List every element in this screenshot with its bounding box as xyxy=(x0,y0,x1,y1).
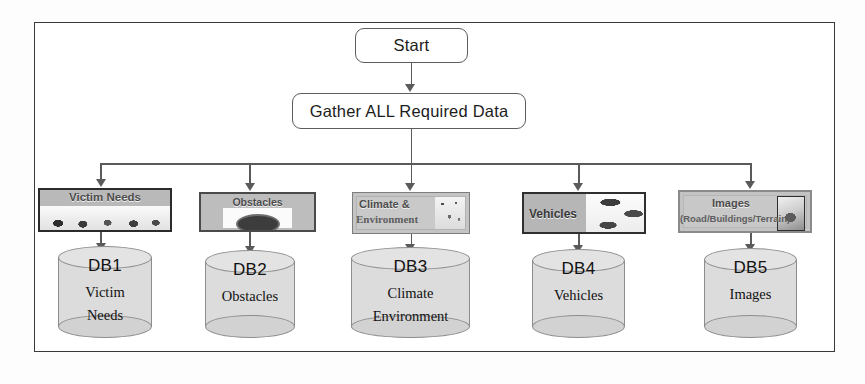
arrowhead-branch-4 xyxy=(573,183,583,191)
start-node-label: Start xyxy=(394,36,430,55)
db4-text: DB4 Vehicles xyxy=(532,249,625,338)
db1-name-line1: Victim xyxy=(85,282,124,303)
branch-drop-3 xyxy=(411,163,413,184)
image-box-sublabel-images: (Road/Buildings/Terrain) xyxy=(680,213,782,224)
branch-drop-2 xyxy=(249,163,251,184)
db5-name-line1: Images xyxy=(730,284,772,305)
db3-name-line1: Climate xyxy=(388,283,434,304)
image-box-label-obstacles: Obstacles xyxy=(201,196,314,208)
diagram-canvas: Start Gather ALL Required Data Victim Ne… xyxy=(0,0,865,384)
db3-id: DB3 xyxy=(394,257,428,277)
db1-name-line2: Needs xyxy=(87,305,123,326)
database-db5[interactable]: DB5 Images xyxy=(704,248,797,338)
connector-gather-to-bus xyxy=(411,129,413,164)
database-db4[interactable]: DB4 Vehicles xyxy=(532,249,625,338)
db4-name-line1: Vehicles xyxy=(554,285,603,306)
image-box-label-vehicles: Vehicles xyxy=(529,207,577,221)
obstacle-ellipse-icon xyxy=(236,214,280,232)
connector-start-to-gather xyxy=(411,63,413,85)
database-db3[interactable]: DB3 Climate Environment xyxy=(351,247,470,338)
image-box-obstacles[interactable]: Obstacles xyxy=(199,192,316,232)
db4-id: DB4 xyxy=(562,259,596,279)
branch-drop-5 xyxy=(750,163,752,182)
image-box-label-images: Images xyxy=(680,197,782,209)
image-box-vehicles[interactable]: Vehicles xyxy=(522,192,646,234)
image-box-climate-environment[interactable]: Climate & Environment xyxy=(352,192,470,234)
image-box-victim-needs[interactable]: Victim Needs xyxy=(38,188,172,232)
victim-needs-photo-icon xyxy=(40,206,170,230)
branch-drop-1 xyxy=(100,163,102,180)
arrowhead-branch-5 xyxy=(745,181,755,189)
gather-data-label: Gather ALL Required Data xyxy=(310,102,509,121)
image-box-sublabel-climate: Environment xyxy=(356,213,418,225)
vehicles-photo-icon xyxy=(586,194,644,232)
db1-id: DB1 xyxy=(88,256,122,276)
database-db2[interactable]: DB2 Obstacles xyxy=(205,250,295,338)
branch-drop-4 xyxy=(578,163,580,184)
arrowhead-branch-1 xyxy=(96,179,106,187)
arrowhead-branch-2 xyxy=(245,183,255,191)
gather-data-node[interactable]: Gather ALL Required Data xyxy=(292,93,526,129)
image-box-label-climate: Climate & xyxy=(359,198,410,210)
db2-id: DB2 xyxy=(233,260,267,280)
image-box-images[interactable]: Images (Road/Buildings/Terrain) xyxy=(678,190,812,233)
arrowhead-gather xyxy=(405,84,415,92)
db2-text: DB2 Obstacles xyxy=(205,250,295,338)
distribution-bus xyxy=(101,163,751,165)
db5-id: DB5 xyxy=(734,258,768,278)
db2-name-line1: Obstacles xyxy=(222,286,278,307)
db3-name-line2: Environment xyxy=(373,306,449,327)
db1-text: DB1 Victim Needs xyxy=(58,246,152,338)
db3-text: DB3 Climate Environment xyxy=(351,247,470,338)
arrowhead-branch-3 xyxy=(405,183,415,191)
image-box-label-victim-needs: Victim Needs xyxy=(40,191,170,203)
start-node[interactable]: Start xyxy=(355,28,468,63)
database-db1[interactable]: DB1 Victim Needs xyxy=(58,246,152,338)
db5-text: DB5 Images xyxy=(704,248,797,338)
climate-photo-icon xyxy=(435,197,465,229)
